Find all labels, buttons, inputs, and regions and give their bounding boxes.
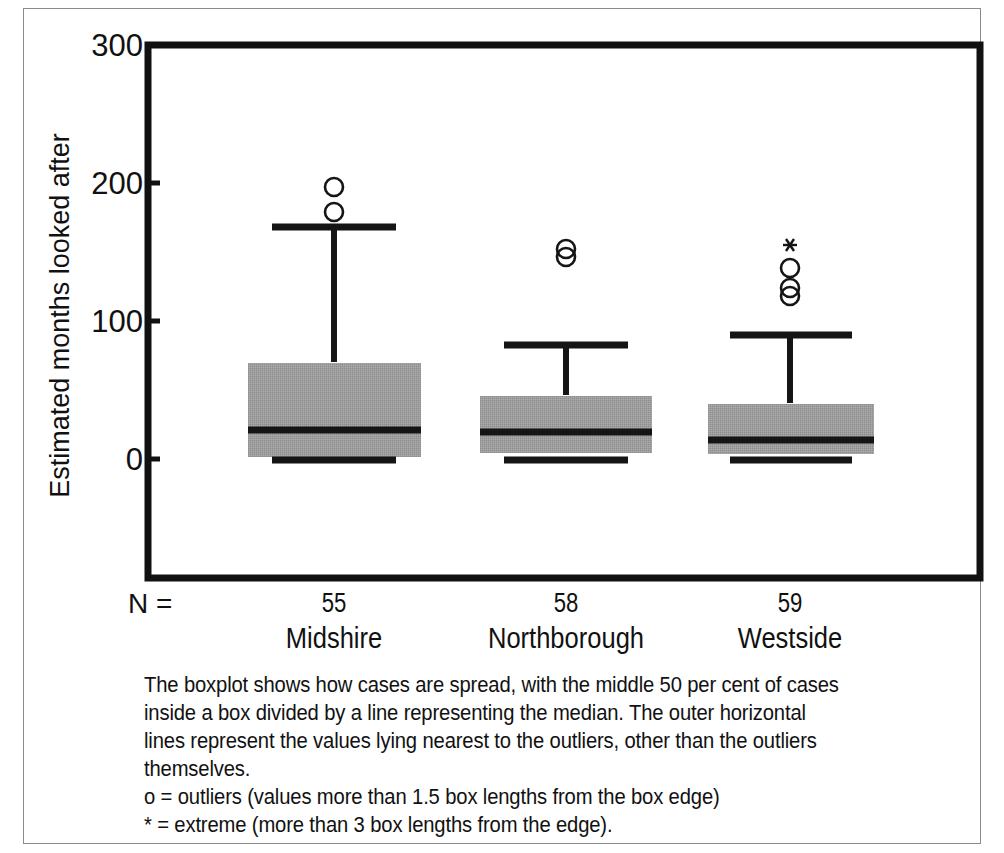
caption-outlier-key: o = outliers (values more than 1.5 box l… — [144, 784, 840, 812]
category-label-westside: Westside — [702, 622, 878, 655]
box-northborough — [480, 396, 652, 453]
box-group-westside — [708, 239, 874, 460]
box-group-midshire — [248, 178, 421, 460]
box-westside — [708, 404, 874, 454]
category-label-northborough: Northborough — [460, 622, 671, 655]
extreme-marker-westside-156 — [783, 239, 797, 251]
n-value-northborough: 58 — [533, 588, 599, 619]
plot-frame — [148, 45, 980, 578]
boxplot-figure: Estimated months looked after 300 200 10… — [0, 0, 1004, 853]
n-value-westside: 59 — [757, 588, 823, 619]
outlier-marker-westside-139 — [781, 259, 799, 277]
n-equals-label: N = — [128, 588, 172, 620]
caption-extreme-key: * = extreme (more than 3 box lengths fro… — [144, 812, 840, 840]
n-value-midshire: 55 — [301, 588, 367, 619]
sample-size-row: N = 55 58 59 — [0, 588, 1004, 622]
category-label-midshire: Midshire — [246, 622, 422, 655]
boxplot-plot-area — [0, 0, 1004, 620]
outlier-marker-midshire-180 — [325, 203, 343, 221]
box-midshire — [248, 363, 421, 457]
category-label-row: Midshire Northborough Westside — [0, 622, 1004, 658]
outlier-marker-midshire-198 — [325, 178, 343, 196]
box-group-northborough — [480, 240, 652, 460]
figure-caption: The boxplot shows how cases are spread, … — [144, 672, 884, 840]
caption-body: The boxplot shows how cases are spread, … — [144, 672, 840, 784]
